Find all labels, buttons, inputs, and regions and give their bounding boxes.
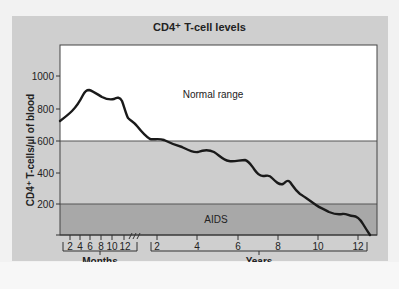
year-tick-12: 12 (352, 241, 364, 252)
month-tick-4: 4 (77, 241, 83, 252)
y-tick-600: 600 (37, 136, 54, 147)
year-tick-10: 10 (312, 241, 324, 252)
aids-label: AIDS (204, 214, 228, 225)
normal-range-label: Normal range (183, 89, 244, 100)
year-tick-8: 8 (275, 241, 281, 252)
y-tick-800: 800 (37, 104, 54, 115)
y-axis-label: CD4⁺ T-cells/µl of blood (25, 94, 36, 206)
month-tick-6: 6 (87, 241, 93, 252)
month-tick-10: 10 (106, 241, 118, 252)
y-tick-1000: 1000 (32, 71, 55, 82)
chart-svg: 1000 800 600 400 200 CD4⁺ T-cells/µl of … (0, 0, 399, 289)
y-tick-400: 400 (37, 168, 54, 179)
month-tick-8: 8 (98, 241, 104, 252)
y-tick-200: 200 (37, 199, 54, 210)
year-tick-6: 6 (235, 241, 241, 252)
month-tick-2: 2 (67, 241, 73, 252)
mid-region (60, 141, 377, 204)
year-tick-4: 4 (194, 241, 200, 252)
page-background (0, 262, 399, 289)
year-tick-2: 2 (154, 241, 160, 252)
month-tick-12: 12 (119, 241, 131, 252)
